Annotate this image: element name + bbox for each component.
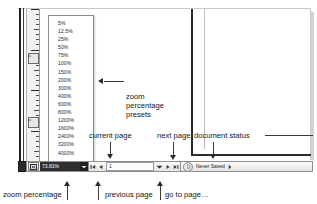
ruler-tick: [36, 136, 39, 137]
page-shadow: [311, 12, 314, 160]
ruler-tick: [31, 131, 39, 132]
previous-page-icon[interactable]: [97, 162, 105, 171]
ruler-tick: [36, 115, 39, 116]
zoom-preset-item[interactable]: 200%: [49, 76, 93, 84]
ruler-tick: [36, 44, 39, 45]
window-frame-rule-inner: [23, 8, 24, 164]
zoom-preset-item[interactable]: 300%: [49, 84, 93, 92]
ruler-tick: [36, 95, 39, 96]
ruler-tick: [31, 90, 39, 91]
zoom-preset-item[interactable]: 4000%: [49, 149, 93, 157]
zoom-preset-item[interactable]: 1200%: [49, 116, 93, 124]
page-navigation-control: 1: [89, 162, 181, 171]
zoom-percentage-input[interactable]: 73.81%: [40, 162, 80, 171]
zoom-preset-item[interactable]: 100%: [49, 59, 93, 67]
vertical-ruler[interactable]: 0 0: [26, 9, 40, 161]
first-page-icon[interactable]: [89, 162, 97, 171]
callout-arrowhead: [210, 154, 216, 159]
callout-arrowhead: [64, 181, 70, 186]
callout-arrowhead: [98, 78, 103, 84]
chevron-down-icon[interactable]: [80, 162, 88, 171]
callout-arrowhead: [107, 154, 113, 159]
zoom-percentage-preset-menu[interactable]: 5% 12.5% 25% 50% 75% 100% 150% 200% 300%…: [48, 15, 94, 162]
page-edge-guide: [191, 9, 193, 156]
zoom-preset-item[interactable]: 3200%: [49, 140, 93, 148]
ruler-tick: [31, 50, 39, 51]
callout-arrowhead: [157, 181, 163, 186]
status-bar: 73.81% 1: [26, 161, 313, 172]
ruler-tick: [36, 24, 39, 25]
ruler-tick: [36, 146, 39, 147]
zoom-preset-item[interactable]: 75%: [49, 51, 93, 59]
chevron-right-icon[interactable]: [225, 164, 235, 170]
goto-page-chevron-down-icon[interactable]: [155, 162, 164, 171]
zoom-preset-item[interactable]: 1600%: [49, 124, 93, 132]
zoom-preset-item[interactable]: 12.5%: [49, 27, 93, 35]
zoom-preset-item[interactable]: 2400%: [49, 132, 93, 140]
callout-arrowhead: [95, 181, 101, 186]
ruler-label: 0: [28, 55, 32, 57]
callout-current-page: current page: [89, 131, 132, 140]
ruler-tick: [36, 80, 39, 81]
callout-line: zoom percentage presets: [126, 92, 164, 120]
zoom-preset-item[interactable]: 25%: [49, 35, 93, 43]
document-status-control[interactable]: Never Saved: [181, 162, 312, 171]
callout-leader: [160, 186, 161, 200]
ruler-tick: [36, 156, 39, 157]
ruler-tick: [36, 75, 39, 76]
callout-leader: [265, 135, 313, 136]
zoom-preset-item[interactable]: 5%: [49, 19, 93, 27]
callout-previous-page: previous page: [105, 190, 153, 199]
callout-zoom-percentage: zoom percentage: [3, 190, 62, 199]
ruler-tick: [36, 105, 39, 106]
ruler-tick: [34, 29, 39, 30]
zoom-preset-item[interactable]: 400%: [49, 92, 93, 100]
ruler-tick: [36, 85, 39, 86]
window-frame-rule: [19, 8, 21, 164]
callout-leader: [104, 81, 124, 82]
zoom-preset-item[interactable]: 600%: [49, 100, 93, 108]
callout-next-page: next page: [157, 131, 190, 140]
zoom-preset-item[interactable]: 150%: [49, 68, 93, 76]
callout-leader: [98, 186, 99, 200]
callout-goto-page: go to page…: [165, 190, 209, 199]
document-status-icon[interactable]: [183, 162, 193, 172]
callout-leader: [67, 186, 68, 200]
zoom-preset-item[interactable]: 50%: [49, 43, 93, 51]
ruler-tick: [36, 39, 39, 40]
zoom-preset-item[interactable]: 800%: [49, 108, 93, 116]
ruler-tick: [36, 14, 39, 15]
callout-zoom-percentage-presets: zoom percentage presets: [126, 73, 164, 129]
ruler-tick: [34, 151, 39, 152]
ruler-tick: [36, 141, 39, 142]
ruler-tick: [31, 9, 39, 10]
ruler-tick: [34, 70, 39, 71]
document-status-text: Never Saved: [196, 162, 225, 171]
next-page-icon[interactable]: [164, 162, 172, 171]
callout-leader: [173, 142, 174, 156]
ruler-tick: [36, 19, 39, 20]
ruler-tick: [36, 65, 39, 66]
callout-document-status: document status: [194, 131, 250, 140]
last-page-icon[interactable]: [172, 162, 180, 171]
zoom-percentage-control[interactable]: 73.81%: [27, 162, 89, 171]
current-page-input[interactable]: 1: [106, 162, 154, 171]
ruler-tick: [36, 34, 39, 35]
ruler-tick: [36, 100, 39, 101]
status-bar-left-cap: [18, 161, 26, 172]
callout-arrowhead: [170, 155, 176, 160]
page-margin-guide: [204, 9, 205, 149]
fit-page-icon[interactable]: [28, 162, 39, 171]
ruler-tick: [34, 110, 39, 111]
ruler-label: 0: [28, 119, 32, 121]
